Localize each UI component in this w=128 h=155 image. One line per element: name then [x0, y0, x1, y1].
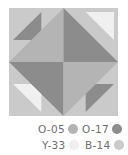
- color-swatch: [114, 140, 124, 150]
- legend-label: O-17: [82, 123, 109, 135]
- legend-item-o05: O-05: [38, 122, 78, 136]
- legend-item-o17: O-17: [82, 122, 122, 136]
- legend-item-b14: B-14: [85, 138, 124, 152]
- legend-label: Y-33: [42, 139, 66, 151]
- color-swatch: [112, 124, 122, 134]
- quilt-block: [0, 0, 128, 118]
- legend-item-y33: Y-33: [42, 138, 79, 152]
- legend-label: B-14: [85, 139, 111, 151]
- legend-label: O-05: [38, 123, 65, 135]
- color-swatch: [68, 124, 78, 134]
- legend: O-05 O-17 Y-33 B-14: [0, 118, 128, 155]
- color-swatch: [69, 140, 79, 150]
